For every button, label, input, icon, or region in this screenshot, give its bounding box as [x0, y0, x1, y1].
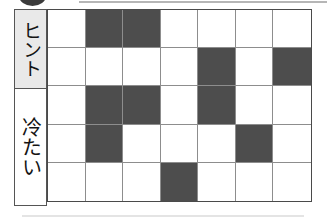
grid-cell-r5-c1[interactable]: [48, 163, 86, 201]
grid-cell-r4-c4[interactable]: [161, 125, 199, 163]
grid-cell-r4-c5[interactable]: [198, 125, 236, 163]
grid-cell-r2-c7[interactable]: [273, 48, 311, 86]
top-divider: [79, 1, 327, 3]
grid-cell-r4-c3[interactable]: [123, 125, 161, 163]
grid-cell-r3-c5[interactable]: [198, 86, 236, 124]
grid-cell-r4-c6[interactable]: [236, 125, 274, 163]
grid-cell-r3-c6[interactable]: [236, 86, 274, 124]
grid-cell-r4-c1[interactable]: [48, 125, 86, 163]
grid-cell-r5-c6[interactable]: [236, 163, 274, 201]
pattern-grid: [47, 9, 312, 202]
label-cell-hint: ヒント: [14, 9, 47, 89]
grid-cell-r5-c5[interactable]: [198, 163, 236, 201]
bottom-divider: [22, 215, 304, 217]
grid-cell-r5-c3[interactable]: [123, 163, 161, 201]
grid-cell-r5-c4[interactable]: [161, 163, 199, 201]
grid-cell-r1-c6[interactable]: [236, 10, 274, 48]
grid-cell-r4-c7[interactable]: [273, 125, 311, 163]
grid-cell-r2-c2[interactable]: [86, 48, 124, 86]
grid-cell-r3-c2[interactable]: [86, 86, 124, 124]
grid-cell-r1-c1[interactable]: [48, 10, 86, 48]
grid-cell-r3-c4[interactable]: [161, 86, 199, 124]
grid-cell-r2-c1[interactable]: [48, 48, 86, 86]
grid-cell-r2-c5[interactable]: [198, 48, 236, 86]
grid-cell-r2-c4[interactable]: [161, 48, 199, 86]
grid-cell-r1-c5[interactable]: [198, 10, 236, 48]
grid-cell-r3-c3[interactable]: [123, 86, 161, 124]
grid-cell-r1-c4[interactable]: [161, 10, 199, 48]
grid-cell-r1-c2[interactable]: [86, 10, 124, 48]
grid-cell-r1-c3[interactable]: [123, 10, 161, 48]
grid-cell-r3-c1[interactable]: [48, 86, 86, 124]
label-text-hint: ヒント: [21, 21, 41, 78]
grid-cell-r2-c3[interactable]: [123, 48, 161, 86]
grid-cell-r3-c7[interactable]: [273, 86, 311, 124]
grid-cell-r1-c7[interactable]: [273, 10, 311, 48]
label-cell-cold: 冷たい: [14, 89, 47, 206]
grid-cell-r5-c2[interactable]: [86, 163, 124, 201]
dark-circle-mark: [19, 0, 46, 6]
label-text-cold: 冷たい: [20, 117, 41, 177]
label-column: ヒント 冷たい: [14, 9, 47, 206]
grid-cell-r4-c2[interactable]: [86, 125, 124, 163]
grid-cell-r2-c6[interactable]: [236, 48, 274, 86]
grid-cell-r5-c7[interactable]: [273, 163, 311, 201]
